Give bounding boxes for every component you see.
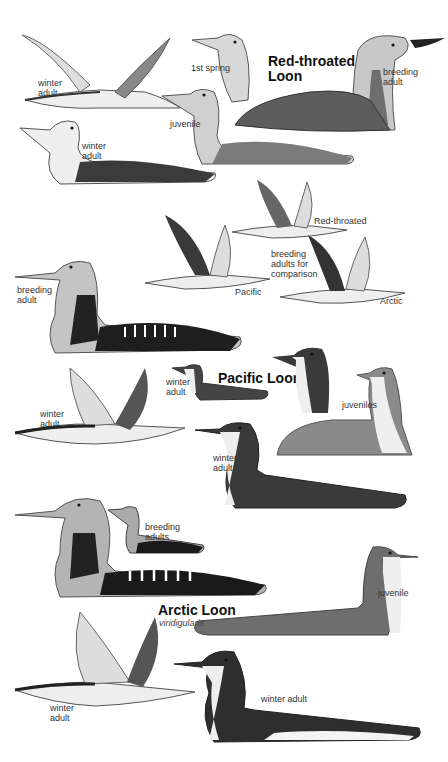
label-comparison-arctic: Arctic [380,296,403,306]
red-throated-winter-adult-swimming-illustration [20,118,220,188]
label-pacific-winter-adult-swimming: winter adult [213,453,237,473]
label-pacific-winter-adult-flying: winter adult [40,409,64,429]
loon-identification-plate: winter adult 1st spring Red-throated Loo… [0,0,448,762]
label-pacific-breeding-adult: breeding adult [17,285,52,305]
label-arctic-breeding-adults: breeding adults [145,522,180,542]
pacific-winter-adult-flying-illustration [15,368,185,443]
label-arctic-winter-adult-flying: winter adult [50,703,74,723]
label-arctic-juvenile: juvenile [378,588,409,598]
label-rt-breeding-adult: breeding adult [383,67,418,87]
label-rt-1st-spring: 1st spring [191,63,230,73]
label-arctic-winter-adult-swimming: winter adult [261,694,307,704]
comparison-arctic-flying-illustration [280,235,405,300]
label-rt-winter-adult-swimming: winter adult [82,141,106,161]
pacific-breeding-adult-illustration [15,255,250,355]
label-comparison-red-throated: Red-throated [314,216,367,226]
label-rt-winter-adult-flying: winter adult [38,78,62,98]
red-throated-winter-adult-flying-illustration [20,30,170,110]
arctic-winter-adult-flying-illustration [15,612,195,707]
label-pacific-juveniles: juveniles [342,400,377,410]
label-pacific-winter-adult-small: winter adult [166,377,190,397]
